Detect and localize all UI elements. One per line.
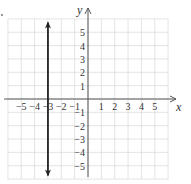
y-tick-label: 4 [80, 41, 85, 52]
y-tick-label: −1 [74, 107, 85, 118]
y-tick-label: 3 [80, 54, 85, 65]
x-tick-label: 1 [99, 101, 104, 112]
y-tick-label: −4 [74, 147, 85, 158]
coordinate-plane: −5−4−3−2−112345 −5−4−3−2−112345 x y [0, 0, 191, 184]
x-tick-label: 2 [112, 101, 117, 112]
x-tick-label: 5 [152, 101, 157, 112]
x-tick-label: 4 [139, 101, 144, 112]
x-tick-labels: −5−4−3−2−112345 [16, 101, 157, 112]
y-tick-label: 1 [80, 81, 85, 92]
y-tick-label: −3 [74, 134, 85, 145]
corner-dot [1, 14, 3, 16]
y-axis-label: y [76, 3, 83, 17]
x-axis-label: x [175, 100, 182, 114]
y-tick-label: −2 [74, 121, 85, 132]
x-tick-label: 3 [126, 101, 131, 112]
x-tick-label: −2 [56, 101, 67, 112]
y-tick-label: 2 [80, 67, 85, 78]
y-tick-label: 5 [80, 27, 85, 38]
axes [4, 8, 176, 177]
y-tick-label: −5 [74, 161, 85, 172]
x-tick-label: −5 [16, 101, 27, 112]
x-tick-label: −4 [29, 101, 40, 112]
